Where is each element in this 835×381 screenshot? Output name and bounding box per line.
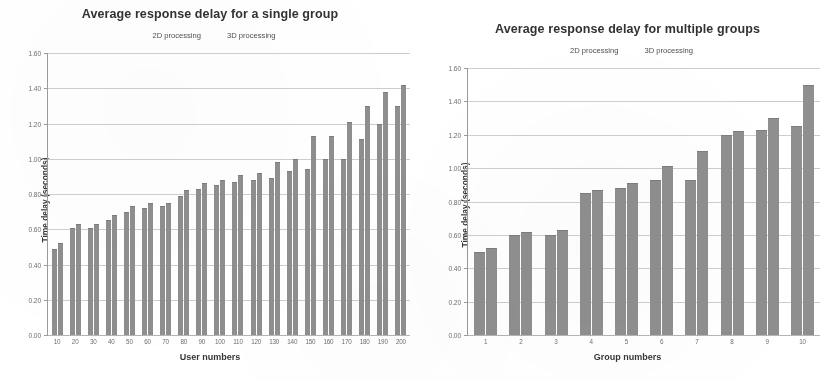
y-axis-tick xyxy=(44,335,48,336)
x-axis-tick-label: 190 xyxy=(374,338,392,345)
bar-2d-processing xyxy=(545,235,556,335)
bar-group xyxy=(193,53,211,335)
x-axis-tick-label: 200 xyxy=(392,338,410,345)
bar-3d-processing xyxy=(768,118,779,335)
x-axis-labels-single-group: 1020304050607080901001101201301401501601… xyxy=(48,338,410,345)
bar-group xyxy=(138,53,156,335)
legend-multiple-groups: 2D processing 3D processing xyxy=(420,46,835,55)
bar-3d-processing xyxy=(311,136,316,335)
x-axis-tick-label: 120 xyxy=(247,338,265,345)
x-axis-tick-label: 3 xyxy=(538,338,573,345)
y-axis-tick-label: 1.40 xyxy=(29,85,41,92)
y-axis-tick-label: 1.40 xyxy=(449,98,461,105)
bar-group xyxy=(356,53,374,335)
bar-2d-processing xyxy=(269,178,274,335)
x-axis-tick-label: 70 xyxy=(157,338,175,345)
bar-group xyxy=(319,53,337,335)
x-axis-tick-label: 40 xyxy=(102,338,120,345)
bar-3d-processing xyxy=(697,151,708,335)
chart-panel-single-group: Average response delay for a single grou… xyxy=(0,0,420,381)
bar-3d-processing xyxy=(184,190,189,335)
legend-swatch-2d-icon xyxy=(144,33,149,38)
bar-group xyxy=(392,53,410,335)
bar-3d-processing xyxy=(166,203,171,335)
bar-3d-processing xyxy=(401,85,406,335)
bar-2d-processing xyxy=(70,228,75,336)
bar-group xyxy=(785,68,820,335)
bar-3d-processing xyxy=(803,85,814,335)
bar-group xyxy=(301,53,319,335)
bar-2d-processing xyxy=(232,182,237,335)
bar-group xyxy=(247,53,265,335)
x-axis-tick-label: 4 xyxy=(574,338,609,345)
bar-3d-processing xyxy=(220,180,225,335)
bar-group xyxy=(503,68,538,335)
bar-3d-processing xyxy=(58,243,63,335)
x-axis-tick-label: 10 xyxy=(48,338,66,345)
x-axis-tick-label: 130 xyxy=(265,338,283,345)
bar-3d-processing xyxy=(557,230,568,335)
bar-group xyxy=(609,68,644,335)
bar-group xyxy=(750,68,785,335)
bar-3d-processing xyxy=(627,183,638,335)
bar-group xyxy=(48,53,66,335)
bar-2d-processing xyxy=(359,139,364,335)
legend-label-3d: 3D processing xyxy=(227,31,276,40)
y-axis-tick-label: 1.00 xyxy=(29,155,41,162)
bar-3d-processing xyxy=(329,136,334,335)
bar-3d-processing xyxy=(130,206,135,335)
bars-multiple-groups xyxy=(468,68,820,335)
gridline xyxy=(468,335,820,336)
legend-item-3d: 3D processing xyxy=(637,46,694,55)
bar-2d-processing xyxy=(685,180,696,335)
legend-label-2d: 2D processing xyxy=(570,46,619,55)
x-axis-tick-label: 2 xyxy=(503,338,538,345)
bar-3d-processing xyxy=(275,162,280,335)
bar-group xyxy=(283,53,301,335)
bar-group xyxy=(102,53,120,335)
bar-3d-processing xyxy=(521,232,532,335)
bar-2d-processing xyxy=(178,196,183,335)
gridline xyxy=(48,335,410,336)
bar-2d-processing xyxy=(377,124,382,336)
x-axis-tick-label: 140 xyxy=(283,338,301,345)
x-axis-title-single-group: User numbers xyxy=(0,352,420,362)
bar-3d-processing xyxy=(76,224,81,335)
plot-area-multiple-groups: 0.000.200.400.600.801.001.201.401.60 xyxy=(468,68,820,335)
bar-group xyxy=(338,53,356,335)
x-axis-tick-label: 6 xyxy=(644,338,679,345)
bar-3d-processing xyxy=(486,248,497,335)
x-axis-tick-label: 7 xyxy=(679,338,714,345)
bar-group xyxy=(84,53,102,335)
y-axis-tick-label: 0.20 xyxy=(29,296,41,303)
plot-area-single-group: 0.000.200.400.600.801.001.201.401.60 xyxy=(48,53,410,335)
bar-2d-processing xyxy=(106,220,111,335)
bar-3d-processing xyxy=(112,215,117,335)
x-axis-tick-label: 10 xyxy=(785,338,820,345)
bar-2d-processing xyxy=(196,189,201,335)
bar-3d-processing xyxy=(592,190,603,335)
y-axis-tick-label: 0.60 xyxy=(449,231,461,238)
figure-container: Average response delay for a single grou… xyxy=(0,0,835,381)
bar-2d-processing xyxy=(214,185,219,335)
bar-2d-processing xyxy=(650,180,661,335)
chart-title-multiple-groups: Average response delay for multiple grou… xyxy=(420,22,835,36)
legend-swatch-3d-icon xyxy=(219,33,224,38)
bar-2d-processing xyxy=(142,208,147,335)
bar-2d-processing xyxy=(791,126,802,335)
x-axis-tick-label: 1 xyxy=(468,338,503,345)
legend-item-3d: 3D processing xyxy=(219,31,276,40)
y-axis-tick-label: 0.00 xyxy=(29,332,41,339)
x-axis-tick-label: 30 xyxy=(84,338,102,345)
bar-group xyxy=(66,53,84,335)
x-axis-tick-label: 50 xyxy=(120,338,138,345)
y-axis-tick-label: 0.20 xyxy=(449,298,461,305)
bar-group xyxy=(374,53,392,335)
chart-panel-multiple-groups: Average response delay for multiple grou… xyxy=(420,0,835,381)
legend-swatch-3d-icon xyxy=(637,48,642,53)
x-axis-tick-label: 60 xyxy=(138,338,156,345)
legend-single-group: 2D processing 3D processing xyxy=(0,31,420,40)
y-axis-tick-label: 0.60 xyxy=(29,226,41,233)
x-axis-tick-label: 90 xyxy=(193,338,211,345)
bar-3d-processing xyxy=(347,122,352,335)
